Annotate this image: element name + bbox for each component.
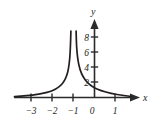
x-tick-label-neg2: −2 bbox=[46, 106, 57, 116]
math-figure: −3 −2 −1 0 1 8 6 4 2 x y bbox=[0, 0, 158, 125]
x-tick-label-pos1: 1 bbox=[113, 106, 118, 116]
y-axis-arrow-icon bbox=[90, 19, 98, 29]
x-tick-label-neg3: −3 bbox=[25, 106, 36, 116]
y-tick-label-4: 4 bbox=[84, 63, 89, 73]
y-tick-label-6: 6 bbox=[84, 48, 89, 58]
x-tick-label-neg1: −1 bbox=[67, 106, 78, 116]
x-tick-label-zero: 0 bbox=[90, 106, 95, 116]
y-axis-label: y bbox=[90, 6, 96, 17]
plot-canvas: −3 −2 −1 0 1 8 6 4 2 x y bbox=[0, 0, 158, 125]
x-axis-label: x bbox=[142, 92, 148, 103]
curve-left-branch bbox=[15, 31, 71, 97]
y-tick-label-8: 8 bbox=[84, 33, 89, 43]
x-axis-arrow-icon bbox=[130, 93, 140, 101]
